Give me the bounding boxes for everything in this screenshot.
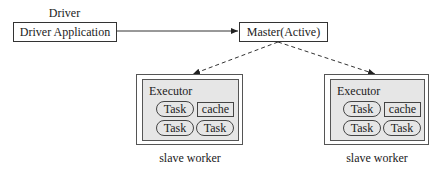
- cache-2: cache: [384, 102, 421, 117]
- executor-1-label: Executor: [149, 84, 192, 99]
- master-to-worker1-dashed-arrow: [193, 42, 278, 74]
- master-box: Master(Active): [239, 22, 328, 42]
- task-2-3: Task: [383, 120, 421, 136]
- task-1-1: Task: [156, 101, 194, 117]
- cache-1: cache: [197, 102, 234, 117]
- task-2-1: Task: [343, 101, 381, 117]
- task-1-3: Task: [196, 120, 234, 136]
- master-to-worker2-dashed-arrow: [278, 42, 375, 74]
- worker-2-caption: slave worker: [327, 151, 427, 166]
- executor-2-label: Executor: [337, 84, 380, 99]
- driver-application-box: Driver Application: [13, 22, 117, 42]
- driver-heading: Driver: [13, 6, 116, 21]
- worker-1-caption: slave worker: [140, 151, 240, 166]
- task-2-2: Task: [343, 120, 381, 136]
- task-1-2: Task: [156, 120, 194, 136]
